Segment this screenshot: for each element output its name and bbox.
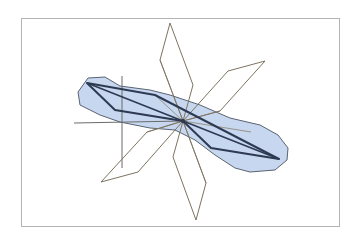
center-point [181,119,185,123]
diagram-canvas [0,0,359,244]
star-diagram [0,0,359,244]
